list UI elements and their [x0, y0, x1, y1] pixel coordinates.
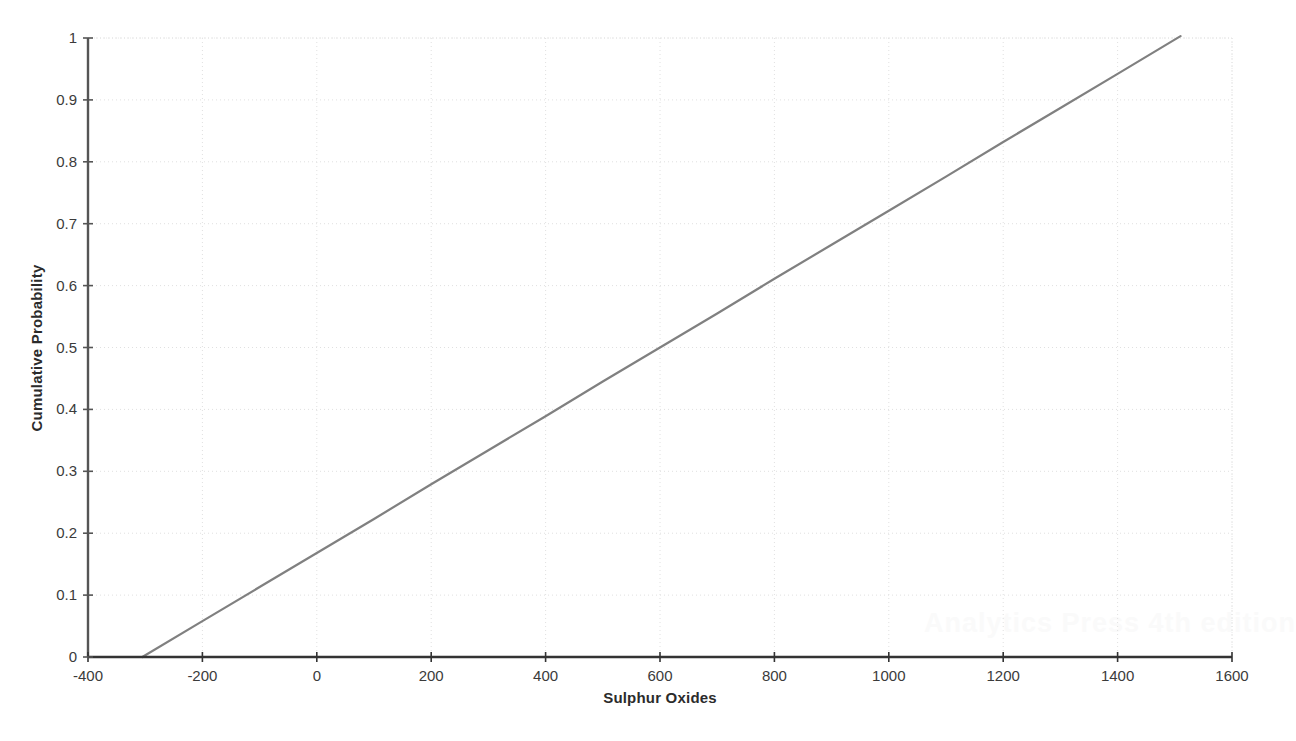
- x-tick-label: 400: [533, 667, 558, 684]
- data-series-group: [142, 36, 1180, 657]
- x-tick-label: -200: [187, 667, 217, 684]
- y-tick-label: 0.2: [56, 524, 77, 541]
- x-tick-label: 1200: [987, 667, 1020, 684]
- horizontal-gridlines: [88, 38, 1232, 595]
- x-axis-tick-labels: -400-20002004006008001000120014001600: [73, 667, 1249, 684]
- y-tick-label: 1: [69, 29, 77, 46]
- cumulative-probability-chart: Analytics Press 4th edition -400-2000200…: [0, 0, 1296, 741]
- y-tick-label: 0.7: [56, 215, 77, 232]
- x-tick-label: 1600: [1215, 667, 1248, 684]
- y-tick-label: 0.3: [56, 462, 77, 479]
- series-line-cumulative-probability: [142, 36, 1180, 657]
- y-tick-label: 0.6: [56, 277, 77, 294]
- x-tick-label: 1400: [1101, 667, 1134, 684]
- y-tick-label: 0: [69, 648, 77, 665]
- x-tick-label: 600: [647, 667, 672, 684]
- y-axis-title: Cumulative Probability: [28, 264, 45, 431]
- x-tick-label: 0: [313, 667, 321, 684]
- y-tick-label: 0.5: [56, 339, 77, 356]
- y-tick-label: 0.8: [56, 153, 77, 170]
- x-tick-label: 200: [419, 667, 444, 684]
- x-tick-label: 800: [762, 667, 787, 684]
- y-tick-label: 0.4: [56, 400, 77, 417]
- chart-watermark: Analytics Press 4th edition: [924, 608, 1296, 638]
- x-axis-title: Sulphur Oxides: [603, 689, 717, 706]
- chart-container: Analytics Press 4th edition -400-2000200…: [0, 0, 1296, 741]
- y-tick-label: 0.9: [56, 91, 77, 108]
- x-tick-label: -400: [73, 667, 103, 684]
- watermark-label: Analytics Press 4th edition: [924, 608, 1296, 638]
- y-tick-label: 0.1: [56, 586, 77, 603]
- x-tick-label: 1000: [872, 667, 905, 684]
- y-axis-tick-labels: 00.10.20.30.40.50.60.70.80.91: [56, 29, 77, 665]
